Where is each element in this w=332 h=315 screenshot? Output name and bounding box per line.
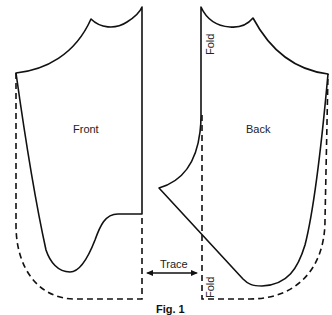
trace-arrow — [146, 270, 198, 276]
arrow-right-icon — [191, 270, 198, 276]
front-piece — [16, 7, 142, 299]
front-label: Front — [73, 123, 99, 135]
trace-label: Trace — [160, 258, 188, 270]
front-outline — [16, 7, 142, 272]
back-piece — [159, 7, 328, 299]
back-label: Back — [246, 123, 271, 135]
arrow-left-icon — [146, 270, 153, 276]
fold-label-top: Fold — [204, 34, 216, 55]
pattern-diagram: Front Back Trace Fold Fold Fig. 1 — [0, 0, 332, 315]
back-outline — [159, 7, 328, 286]
back-seam-allowance — [202, 74, 328, 299]
fold-label-bottom: Fold — [204, 277, 216, 298]
front-seam-allowance — [16, 73, 142, 299]
figure-caption: Fig. 1 — [156, 303, 185, 315]
